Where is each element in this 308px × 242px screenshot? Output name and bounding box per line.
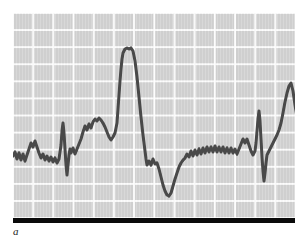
waveform-trace-noise (13, 47, 295, 197)
figure-panel: a (0, 0, 308, 242)
plot-area (13, 13, 295, 218)
scale-bar (13, 218, 295, 223)
waveform-trace-path (13, 48, 295, 196)
panel-label: a (13, 225, 19, 237)
waveform-trace-svg (13, 13, 295, 218)
